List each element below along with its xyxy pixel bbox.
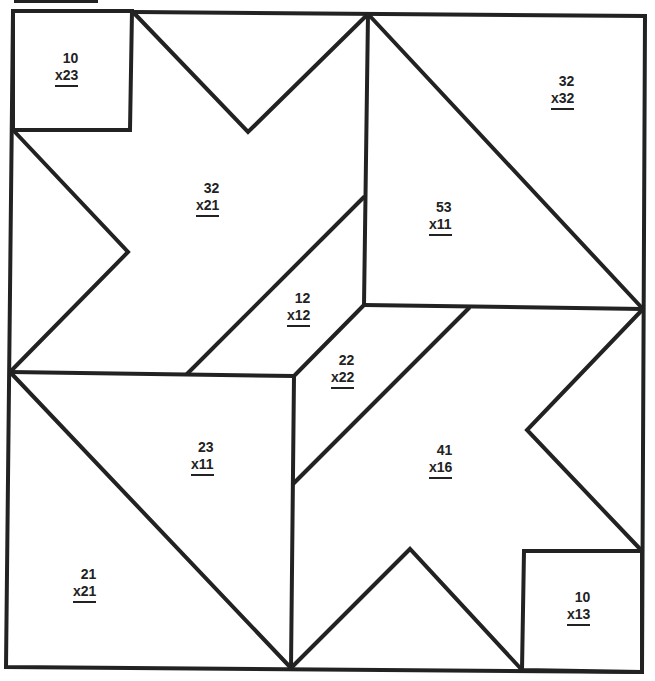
multiplier: x22: [331, 369, 354, 389]
header-tab: [14, 0, 98, 3]
multiplier: x16: [429, 459, 452, 479]
problem-top-left-square: 10 x23: [55, 50, 78, 87]
multiplicand: 10: [567, 589, 590, 606]
problem-lower-right-star: 41 x16: [429, 442, 452, 479]
multiplier: x13: [567, 606, 590, 626]
problem-bottom-left-corner: 21 x21: [73, 566, 96, 603]
multiplier: x32: [551, 90, 574, 110]
multiplier: x11: [191, 456, 214, 476]
problem-upper-right-triangle: 53 x11: [429, 199, 452, 236]
multiplier: x11: [429, 216, 452, 236]
problem-center-upper-strip: 12 x12: [287, 290, 310, 327]
problem-upper-left-star: 32 x21: [196, 180, 219, 217]
problem-center-lower-strip: 22 x22: [331, 352, 354, 389]
multiplicand: 10: [55, 50, 78, 67]
multiplicand: 53: [429, 199, 452, 216]
multiplicand: 32: [551, 73, 574, 90]
problem-bottom-right-square: 10 x13: [567, 589, 590, 626]
multiplicand: 41: [429, 442, 452, 459]
problem-lower-left-triangle: 23 x11: [191, 439, 214, 476]
multiplicand: 23: [191, 439, 214, 456]
multiplier: x23: [55, 67, 78, 87]
multiplier: x12: [287, 307, 310, 327]
multiplicand: 12: [287, 290, 310, 307]
multiplicand: 21: [73, 566, 96, 583]
multiplier: x21: [73, 583, 96, 603]
multiplicand: 32: [196, 180, 219, 197]
multiplier: x21: [196, 197, 219, 217]
problem-top-right-corner: 32 x32: [551, 73, 574, 110]
multiplicand: 22: [331, 352, 354, 369]
